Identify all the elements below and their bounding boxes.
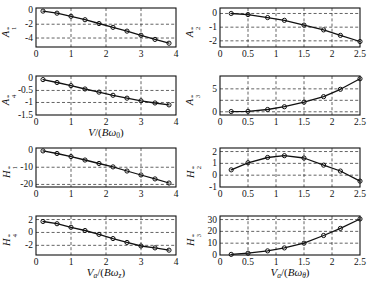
x-tick-label: 4 — [174, 189, 179, 199]
x-label-part: /( — [281, 266, 288, 278]
subplot-H2-star: H*200.511.522.5210-1 — [184, 145, 369, 213]
y-tick-label: 0 — [212, 170, 217, 180]
x-tick-label: 2.5 — [354, 117, 366, 127]
chart-H2: 00.511.522.5210-1 — [184, 145, 368, 199]
y-tick-label: 10 — [208, 238, 218, 248]
x-tick-label: 0 — [34, 257, 39, 267]
x-tick-label: 0 — [34, 189, 39, 199]
x-tick-label: 4 — [174, 257, 179, 267]
y-tick-label: -2 — [25, 19, 33, 29]
data-curve — [231, 79, 360, 112]
chart-A3: 00.511.522.505 — [184, 73, 368, 127]
y-tick-label: 0 — [212, 250, 217, 260]
y-tick-label: 2 — [28, 215, 33, 225]
chart-H1: 012340-10-20 — [0, 145, 184, 199]
subplot-H4-star: H*40123420-2Va/(Bωz) — [0, 213, 184, 287]
x-tick-label: 1.5 — [298, 49, 310, 59]
subplot-A1-star: A*1012340-2-4 — [0, 5, 184, 73]
subplot-H1-star: H*1012340-10-20 — [0, 145, 184, 213]
subplot-H3-star: H*300.511.522.50102030Va/(Bωθ) — [184, 213, 369, 287]
x-label-part: B — [102, 126, 109, 138]
x-tick-label: 0 — [218, 49, 223, 59]
x-label-part: B — [104, 266, 111, 278]
x-tick-label: 1.5 — [298, 117, 310, 127]
x-tick-label: 1 — [274, 189, 279, 199]
chart-A2: 00.511.522.50-1-2 — [184, 5, 368, 59]
x-tick-label: 0 — [218, 117, 223, 127]
x-tick-label: 2 — [330, 189, 335, 199]
x-axis-label: Va/(Bωz) — [36, 266, 176, 280]
x-label-part: ) — [120, 126, 124, 138]
x-tick-label: 1 — [69, 117, 74, 127]
x-label-part: /( — [95, 126, 102, 138]
y-tick-label: -20 — [20, 179, 33, 189]
y-tick-label: -1 — [25, 97, 33, 107]
x-tick-label: 2.5 — [354, 257, 366, 267]
x-tick-label: 1 — [69, 257, 74, 267]
y-tick-label: -4 — [25, 33, 33, 43]
y-tick-label: 5 — [212, 84, 217, 94]
x-tick-label: 3 — [139, 117, 144, 127]
y-tick-label: 0 — [212, 8, 217, 18]
x-tick-label: 1 — [69, 189, 74, 199]
x-tick-label: 0.5 — [242, 117, 254, 127]
y-tick-label: 2 — [212, 147, 217, 157]
data-curve — [231, 156, 360, 181]
subplot-A2-star: A*200.511.522.50-1-2 — [184, 5, 369, 73]
x-tick-label: 4 — [174, 49, 179, 59]
y-tick-label: -2 — [209, 36, 217, 46]
x-tick-label: 1.5 — [298, 189, 310, 199]
y-tick-label: -0.5 — [18, 85, 33, 95]
x-label-part: V — [87, 266, 94, 278]
x-tick-label: 2 — [104, 49, 109, 59]
plot-frame — [220, 148, 360, 187]
x-tick-label: 2 — [330, 49, 335, 59]
y-tick-label: 0 — [28, 5, 33, 15]
y-tick-label: 0 — [28, 145, 33, 155]
chart-H4: 0123420-2 — [0, 213, 184, 267]
x-tick-label: 4 — [174, 117, 179, 127]
x-tick-label: 0 — [218, 189, 223, 199]
x-tick-label: 0 — [34, 49, 39, 59]
x-tick-label: 2.5 — [354, 189, 366, 199]
x-tick-label: 0 — [218, 257, 223, 267]
x-tick-label: 0 — [34, 117, 39, 127]
x-tick-label: 2 — [104, 189, 109, 199]
x-label-part: ω — [111, 266, 119, 278]
chart-H3: 00.511.522.50102030 — [184, 213, 368, 267]
y-tick-label: -1 — [209, 182, 217, 192]
y-tick-label: 0 — [212, 107, 217, 117]
x-tick-label: 0.5 — [242, 189, 254, 199]
subplot-A4-star: A*4012340-0.5-1-1.5V/(Bω0) — [0, 73, 184, 145]
x-tick-label: 3 — [139, 189, 144, 199]
x-tick-label: 1 — [69, 49, 74, 59]
x-tick-label: 1 — [274, 117, 279, 127]
y-tick-label: 0 — [28, 73, 33, 83]
x-label-part: ) — [121, 266, 125, 278]
chart-A1: 012340-2-4 — [0, 5, 184, 59]
y-tick-label: 0 — [28, 227, 33, 237]
y-tick-label: 1 — [212, 158, 217, 168]
data-curve — [231, 219, 360, 254]
x-tick-label: 0.5 — [242, 257, 254, 267]
x-tick-label: 1 — [274, 49, 279, 59]
y-tick-label: -1 — [209, 22, 217, 32]
y-tick-label: -10 — [20, 162, 33, 172]
flutter-derivatives-figure: A*1012340-2-4A*200.511.522.50-1-2A*40123… — [0, 0, 369, 288]
x-tick-label: 2 — [330, 117, 335, 127]
x-tick-label: 3 — [139, 257, 144, 267]
data-curve — [43, 222, 169, 251]
x-axis-label: Va/(Bωθ) — [220, 266, 360, 280]
subplot-A3-star: A*300.511.522.505 — [184, 73, 369, 145]
x-axis-label: V/(Bω0) — [36, 126, 176, 140]
y-tick-label: 20 — [208, 226, 218, 236]
x-label-part: ) — [306, 266, 310, 278]
plot-frame — [220, 76, 360, 115]
x-tick-label: 0.5 — [242, 49, 254, 59]
x-tick-label: 2.5 — [354, 49, 366, 59]
y-tick-label: 30 — [208, 215, 218, 225]
plot-frame — [220, 216, 360, 255]
x-tick-label: 2 — [330, 257, 335, 267]
y-tick-label: -2 — [25, 240, 33, 250]
y-tick-label: -1.5 — [18, 110, 33, 120]
